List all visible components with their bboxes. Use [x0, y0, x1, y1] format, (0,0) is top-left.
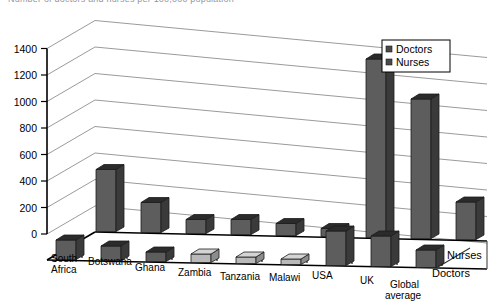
bar-nurses-ghana [186, 215, 214, 234]
x-tick-label-usa: USA [312, 270, 333, 281]
x-tick-label-south-africa-l2: Africa [51, 264, 77, 275]
depth-label-doctors: Doctors [432, 267, 470, 279]
chart-container: Number of doctors and nurses per 100,000… [0, 0, 494, 305]
x-tick-label-uk: UK [360, 275, 374, 286]
bar-nurses-uk [411, 94, 439, 239]
series-nurses-bars [96, 54, 484, 240]
bar-nurses-south-africa [96, 165, 124, 232]
y-tick-label: 1400 [14, 43, 38, 55]
y-axis: 0 200 400 600 800 1000 1200 1400 [14, 43, 47, 241]
y-tick-label: 1000 [14, 96, 38, 108]
bar-nurses-usa [366, 54, 394, 238]
bar-doctors-tanzania [236, 252, 264, 264]
x-tick-label-ghana: Ghana [135, 262, 165, 273]
y-tick-label: 600 [19, 149, 37, 161]
x-tick-label-global-average-l1: Global [390, 279, 419, 290]
y-tick-label: 0 [31, 228, 37, 240]
legend-swatch-nurses [386, 59, 392, 65]
x-tick-label-malawi: Malawi [269, 272, 300, 283]
depth-label-nurses: Nurses [447, 249, 482, 261]
x-tick-label-botswana: Botswana [88, 256, 132, 267]
bar-nurses-global-average [456, 197, 484, 240]
bar-doctors-uk [371, 231, 399, 267]
y-tick-label: 800 [19, 122, 37, 134]
bar-doctors-global-average [416, 245, 444, 268]
y-tick-label: 400 [19, 175, 37, 187]
x-tick-label-zambia: Zambia [178, 267, 212, 278]
chart-svg: 0 200 400 600 800 1000 1200 1400 [0, 0, 494, 305]
x-tick-label-global-average-l2: average [385, 290, 422, 301]
x-tick-label-tanzania: Tanzania [220, 271, 260, 282]
x-tick-label-south-africa-l1: South [51, 253, 77, 264]
legend-label-doctors: Doctors [396, 43, 432, 55]
bar-doctors-usa [326, 226, 354, 266]
bar-nurses-zambia [231, 215, 259, 235]
bar-doctors-malawi [281, 254, 309, 265]
bar-doctors-ghana [146, 247, 174, 262]
chart-legend[interactable]: Doctors Nurses [382, 40, 450, 72]
y-tick-label: 200 [19, 202, 37, 214]
y-tick-label: 1200 [14, 69, 38, 81]
legend-swatch-doctors [386, 46, 392, 52]
bar-doctors-zambia [191, 249, 219, 263]
bar-nurses-tanzania [276, 219, 304, 236]
legend-label-nurses: Nurses [396, 56, 429, 68]
bar-nurses-botswana [141, 198, 169, 233]
